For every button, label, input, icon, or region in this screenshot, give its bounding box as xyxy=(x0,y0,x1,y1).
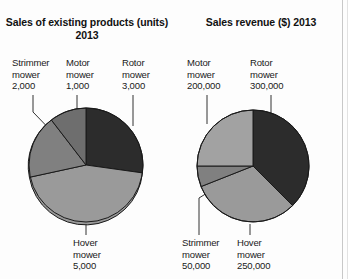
label-motor-left-value: 1,000 xyxy=(66,80,94,92)
label-hover-left: Hover mower 5,000 xyxy=(73,237,101,272)
chart-sales-revenue-dollars: Sales revenue ($) 2013 Motor xyxy=(174,0,348,279)
label-hover-left-value: 5,000 xyxy=(73,260,101,272)
label-rotor-left-value: 3,000 xyxy=(122,80,150,92)
figure-canvas: Sales of existing products (units) 2013 xyxy=(0,0,348,279)
label-strimmer-left-line1: Strimmer xyxy=(12,57,49,69)
label-strimmer-right-line2: mower xyxy=(182,249,219,261)
label-rotor-right: Rotor mower 300,000 xyxy=(250,57,283,92)
label-rotor-right-line2: mower xyxy=(250,69,283,81)
label-motor-right: Motor mower 200,000 xyxy=(187,57,220,92)
label-hover-left-line2: mower xyxy=(73,249,101,261)
label-rotor-left-line2: mower xyxy=(122,69,150,81)
label-motor-left: Motor mower 1,000 xyxy=(66,57,94,92)
chart-existing-products-units: Sales of existing products (units) 2013 xyxy=(0,0,174,279)
label-hover-right: Hover mower 250,000 xyxy=(237,237,270,272)
label-strimmer-left: Strimmer mower 2,000 xyxy=(12,57,49,92)
label-motor-right-line2: mower xyxy=(187,69,220,81)
pie-right-slices xyxy=(197,110,309,222)
label-hover-left-line1: Hover xyxy=(73,237,101,249)
label-strimmer-left-value: 2,000 xyxy=(12,80,49,92)
label-strimmer-right-line1: Strimmer xyxy=(182,237,219,249)
label-motor-right-line1: Motor xyxy=(187,57,220,69)
label-hover-right-line1: Hover xyxy=(237,237,270,249)
label-hover-right-line2: mower xyxy=(237,249,270,261)
label-rotor-right-line1: Rotor xyxy=(250,57,283,69)
label-motor-right-value: 200,000 xyxy=(187,80,220,92)
label-motor-left-line1: Motor xyxy=(66,57,94,69)
label-strimmer-right: Strimmer mower 50,000 xyxy=(182,237,219,272)
label-strimmer-right-value: 50,000 xyxy=(182,260,219,272)
label-rotor-left: Rotor mower 3,000 xyxy=(122,57,150,92)
label-strimmer-left-line2: mower xyxy=(12,69,49,81)
label-hover-right-value: 250,000 xyxy=(237,260,270,272)
label-rotor-right-value: 300,000 xyxy=(250,80,283,92)
label-motor-left-line2: mower xyxy=(66,69,94,81)
label-rotor-left-line1: Rotor xyxy=(122,57,150,69)
pie-slice-motor-right xyxy=(197,110,253,166)
pie-slice-rotor-left xyxy=(86,108,143,173)
